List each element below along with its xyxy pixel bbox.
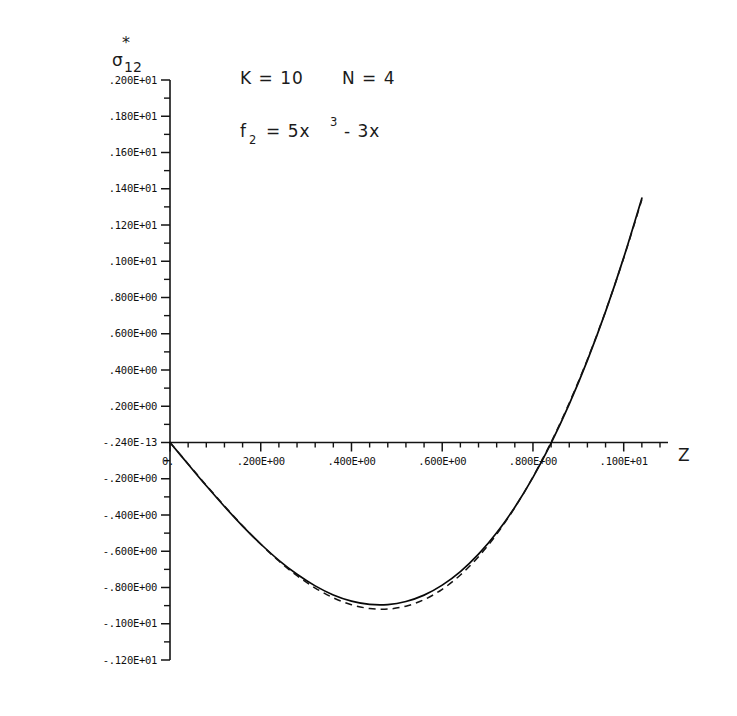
y-axis-title: σ 12 * bbox=[112, 33, 142, 75]
x-tick-label: .200E+00 bbox=[237, 455, 285, 467]
y-tick-label: -.800E+00 bbox=[103, 581, 157, 593]
y-tick-label: -.240E-13 bbox=[103, 436, 157, 448]
y-tick-label: .600E+00 bbox=[109, 327, 157, 339]
y-tick-label: -.200E+00 bbox=[103, 472, 157, 484]
y-axis-title-subscript: 12 bbox=[124, 59, 142, 75]
y-axis-title-superscript: * bbox=[122, 33, 130, 52]
x-axis-title: Z bbox=[678, 445, 690, 465]
y-tick-label: -.400E+00 bbox=[103, 509, 157, 521]
y-axis-ticks bbox=[161, 80, 170, 660]
x-tick-label: .800E+00 bbox=[509, 455, 557, 467]
y-tick-label: .160E+01 bbox=[109, 146, 157, 158]
y-tick-label: -.100E+01 bbox=[103, 617, 157, 629]
y-tick-label: -.120E+01 bbox=[103, 654, 157, 666]
annotation-n: N = 4 bbox=[342, 68, 396, 88]
y-tick-label: -.600E+00 bbox=[103, 545, 157, 557]
y-tick-label: .200E+01 bbox=[109, 74, 157, 86]
y-axis-tick-labels: .200E+01.180E+01.160E+01.140E+01.120E+01… bbox=[103, 74, 157, 666]
y-tick-label: .800E+00 bbox=[109, 291, 157, 303]
annotation-block: K = 10 N = 4 f 2 = 5x 3 - 3x bbox=[240, 68, 396, 147]
x-axis-ticks bbox=[170, 443, 660, 452]
annotation-k: K = 10 bbox=[240, 68, 304, 88]
data-curves bbox=[170, 198, 642, 609]
x-tick-label: .400E+00 bbox=[327, 455, 375, 467]
curve-solid bbox=[170, 198, 642, 605]
axis-spines bbox=[170, 80, 668, 660]
y-tick-label: .400E+00 bbox=[109, 364, 157, 376]
x-tick-label: .100E+01 bbox=[600, 455, 648, 467]
x-tick-label: .600E+00 bbox=[418, 455, 466, 467]
curve-dashed bbox=[170, 200, 642, 610]
annotation-equation: = 5x bbox=[266, 121, 311, 141]
y-tick-label: .180E+01 bbox=[109, 110, 157, 122]
annotation-f: f bbox=[240, 121, 247, 141]
y-tick-label: .200E+00 bbox=[109, 400, 157, 412]
y-axis-title-symbol: σ bbox=[112, 50, 123, 70]
x-axis-tick-labels: 0..200E+00.400E+00.600E+00.800E+00.100E+… bbox=[162, 455, 648, 467]
y-tick-label: .100E+01 bbox=[109, 255, 157, 267]
annotation-exponent: 3 bbox=[330, 115, 337, 129]
y-tick-label: .120E+01 bbox=[109, 219, 157, 231]
annotation-f-subscript: 2 bbox=[249, 133, 256, 147]
figure-root: .200E+01.180E+01.160E+01.140E+01.120E+01… bbox=[0, 0, 737, 716]
plot-canvas: .200E+01.180E+01.160E+01.140E+01.120E+01… bbox=[0, 0, 737, 716]
x-origin-label: 0. bbox=[162, 455, 174, 467]
annotation-equation-tail: - 3x bbox=[344, 121, 380, 141]
y-tick-label: .140E+01 bbox=[109, 182, 157, 194]
